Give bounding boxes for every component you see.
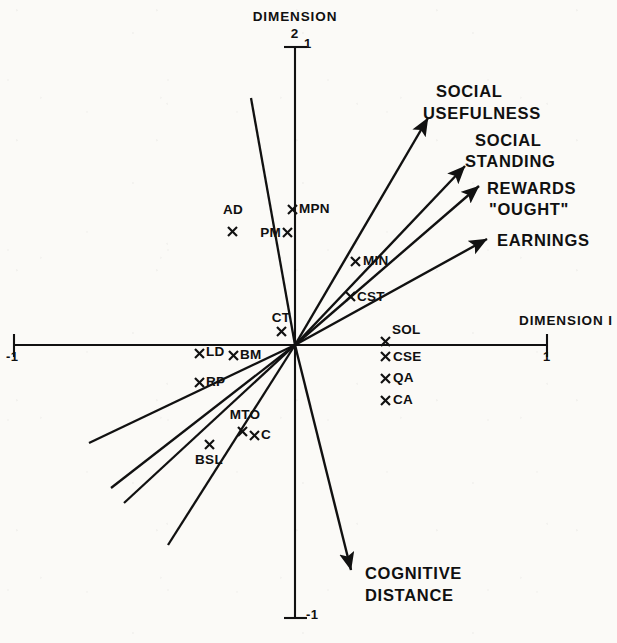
vector-label-earnings: EARNINGS — [497, 232, 590, 250]
x-axis-title: DIMENSION I — [519, 314, 613, 329]
point-label-ct: CT — [272, 311, 291, 326]
point-label-bm: BM — [240, 348, 262, 363]
point-label-qa: QA — [393, 371, 414, 386]
marker-rp — [195, 378, 204, 387]
x-tick-right-label: 1 — [543, 350, 551, 364]
unlabelled-vectors — [89, 98, 295, 545]
marker-ct — [277, 327, 286, 336]
point-label-ld: LD — [206, 345, 225, 360]
y-axis-title-line1: DIMENSION — [253, 10, 338, 25]
vector-label-social-standing-line2: STANDING — [465, 153, 556, 171]
point-label-bsl: BSL — [195, 453, 223, 468]
point-label-ca: CA — [393, 393, 413, 408]
point-label-min: MIN — [363, 254, 389, 269]
point-label-ad: AD — [223, 203, 243, 218]
vector-label-rewards-line1: REWARDS — [487, 180, 576, 198]
marker-c — [250, 431, 259, 440]
point-label-rp: RP — [206, 375, 225, 390]
point-label-sol: SOL — [392, 323, 421, 338]
x-tick-left-label: -1 — [6, 350, 19, 364]
vector-label-social-usefulness-line2: USEFULNESS — [423, 105, 541, 123]
marker-cse — [381, 352, 390, 361]
vector-label-rewards-line2: "OUGHT" — [489, 201, 569, 219]
point-label-mto: MTO — [230, 408, 261, 423]
y-tick-top-label: 1 — [304, 37, 312, 51]
vector-label-social-usefulness-line1: SOCIAL — [436, 83, 503, 101]
point-label-pm: PM — [260, 226, 281, 241]
y-tick-bottom-label: -1 — [306, 608, 319, 622]
marker-qa — [381, 374, 390, 383]
marker-bm — [229, 351, 238, 360]
point-label-cse: CSE — [393, 350, 422, 365]
point-label-mpn: MPN — [299, 202, 330, 217]
vector-cognitive-distance — [295, 345, 351, 570]
vector-earnings — [295, 239, 487, 345]
marker-cst — [346, 292, 355, 301]
point-label-cst: CST — [357, 290, 385, 305]
marker-bsl — [205, 440, 214, 449]
marker-pm — [283, 228, 292, 237]
unlabelled-vector-upper-left — [251, 98, 295, 345]
marker-ca — [381, 396, 390, 405]
point-label-c: C — [261, 428, 271, 443]
y-axis-title-line2: 2 — [291, 27, 299, 42]
scatter-plot-figure: DIMENSION 2 1 -1 DIMENSION I -1 1 SOCIAL… — [0, 0, 617, 643]
vector-label-social-standing-line1: SOCIAL — [475, 132, 542, 150]
marker-min — [351, 257, 360, 266]
vector-label-cognitive-distance-line1: COGNITIVE — [365, 565, 462, 583]
marker-ad — [228, 227, 237, 236]
marker-ld — [195, 349, 204, 358]
vector-social-usefulness — [295, 118, 428, 345]
vector-label-cognitive-distance-line2: DISTANCE — [365, 587, 454, 605]
